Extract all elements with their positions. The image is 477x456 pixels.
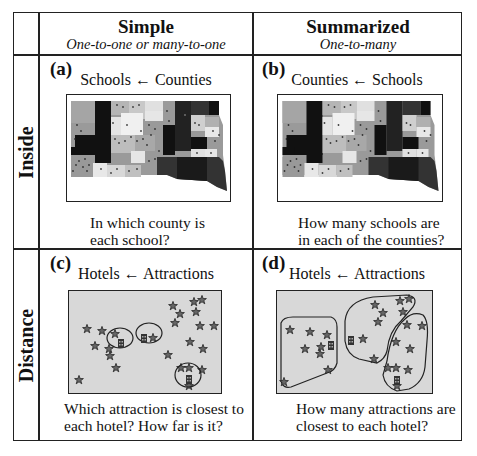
left-arrow-icon: ← [335,265,351,282]
question-line: closest to each hotel? [296,417,456,434]
left-arrow-icon: ← [135,71,151,88]
relation-source: Attractions [143,265,214,282]
hotel-icon [394,376,400,385]
question-line: How many schools are [298,214,444,231]
hotel-icon [118,339,124,348]
question-text: How many attractions are closest to each… [296,400,456,434]
hotel-icon [328,341,334,350]
cell-c: (c) Hotels ← Attractions [40,250,252,440]
relation-source: Counties [155,71,212,88]
question-line: Which attraction is closest to [64,400,244,417]
county-map-figure [277,94,443,202]
column-subtitle: One-to-many [254,37,462,52]
hotels-attractions-figure [276,290,433,394]
question-line: How many attractions are [296,400,456,417]
question-line: in each of the counties? [298,231,444,248]
relation-caption: Schools ← Counties [40,71,252,89]
relation-target: Hotels [78,265,120,282]
question-text: In which county is each school? [90,214,205,248]
question-text: How many schools are in each of the coun… [298,214,444,248]
left-arrow-icon: ← [124,265,140,282]
relation-source: Schools [372,71,423,88]
nearest-attraction-diagram [69,291,221,393]
relation-caption: Hotels ← Attractions [262,265,452,283]
cell-d: (d) Hotels ← Attractions [254,250,462,440]
south-dakota-county-map [67,95,229,200]
hotel-icon [186,375,192,384]
attraction-zones-diagram [277,291,432,393]
relation-caption: Counties ← Schools [262,71,452,89]
relation-target: Counties [291,71,348,88]
comparison-table: Simple One-to-one or many-to-one Summari… [13,12,462,441]
column-subtitle: One-to-one or many-to-one [40,37,252,52]
cell-a: (a) Schools ← Counties [40,56,252,248]
hotel-icon [141,334,147,343]
row-label-text: Inside [15,126,38,178]
relation-caption: Hotels ← Attractions [40,265,252,283]
county-map-figure [66,94,231,202]
south-dakota-county-map [278,95,441,200]
row-label-distance: Distance [14,250,39,440]
relation-target: Schools [80,71,131,88]
column-header-simple: Simple One-to-one or many-to-one [40,13,252,55]
cell-b: (b) Counties ← Schools [254,56,462,248]
question-line: each school? [90,231,205,248]
hotels-attractions-figure [68,290,222,394]
row-label-inside: Inside [14,56,39,248]
relation-source: Attractions [354,265,425,282]
hotel-icon [348,336,354,345]
column-title: Simple [40,17,252,37]
row-label-text: Distance [15,308,38,381]
question-line: each hotel? How far is it? [64,417,244,434]
relation-target: Hotels [289,265,331,282]
column-title: Summarized [254,17,462,37]
question-line: In which county is [90,214,205,231]
question-text: Which attraction is closest to each hote… [64,400,244,434]
column-header-summarized: Summarized One-to-many [254,13,462,55]
left-arrow-icon: ← [352,71,368,88]
